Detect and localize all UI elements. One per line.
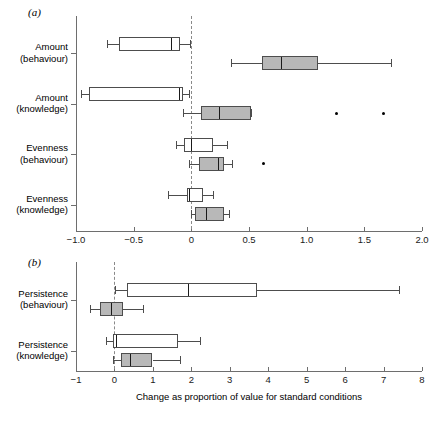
- boxplot-white: [113, 334, 179, 348]
- y-axis-tick: [71, 205, 76, 206]
- category-label: Evenness(knowledge): [6, 193, 68, 216]
- whisker-cap-low: [107, 40, 108, 48]
- x-axis-tick: [345, 367, 346, 371]
- x-axis-tick-label: −1.0: [56, 234, 96, 245]
- whisker-cap-high: [399, 286, 400, 294]
- category-label: Persistence(behaviour): [6, 288, 68, 311]
- x-axis-tick-label: 7: [364, 374, 404, 385]
- category-label: Persistence(knowledge): [6, 339, 68, 362]
- whisker-low: [183, 113, 200, 114]
- y-axis-tick: [71, 351, 76, 352]
- x-axis-tick-label: 1: [133, 374, 173, 385]
- whisker-high: [203, 195, 213, 196]
- category-label-line: (behaviour): [6, 53, 68, 65]
- whisker-high: [123, 309, 143, 310]
- median-line: [171, 38, 172, 50]
- panel-b: (b) Change as proportion of value for st…: [0, 252, 439, 421]
- category-label-line: (behaviour): [6, 299, 68, 311]
- boxplot-grey: [121, 353, 153, 367]
- whisker-cap-high: [227, 141, 228, 149]
- x-axis-tick: [268, 367, 269, 371]
- x-axis-tick-label: 8: [402, 374, 439, 385]
- x-axis-tick: [134, 227, 135, 231]
- median-line: [188, 284, 189, 296]
- whisker-cap-high: [213, 191, 214, 199]
- whisker-high: [178, 341, 200, 342]
- whisker-low: [113, 360, 121, 361]
- whisker-high: [257, 290, 398, 291]
- x-axis-tick: [422, 367, 423, 371]
- y-axis-tick: [71, 104, 76, 105]
- boxplot-grey: [262, 56, 319, 70]
- whisker-low: [168, 195, 186, 196]
- whisker-cap-high: [189, 90, 190, 98]
- whisker-cap-low: [176, 141, 177, 149]
- median-line: [179, 88, 180, 100]
- whisker-cap-high: [143, 305, 144, 313]
- x-axis-tick-label: 6: [325, 374, 365, 385]
- y-axis-tick: [71, 154, 76, 155]
- y-axis-tick: [71, 300, 76, 301]
- x-axis-tick-label: 5: [287, 374, 327, 385]
- boxplot-grey: [201, 106, 252, 120]
- x-axis-tick-label: −0.5: [114, 234, 154, 245]
- category-label-line: Evenness: [6, 142, 68, 154]
- x-axis-tick: [364, 227, 365, 231]
- panel-a-letter: (a): [28, 6, 41, 18]
- x-axis-tick-label: 4: [248, 374, 288, 385]
- x-axis-tick-label: 2.0: [402, 234, 439, 245]
- x-axis-tick: [76, 227, 77, 231]
- x-axis-tick-label: 0.5: [229, 234, 269, 245]
- whisker-low: [176, 145, 184, 146]
- x-axis-line: [76, 231, 422, 232]
- whisker-cap-low: [113, 356, 114, 364]
- whisker-high: [153, 360, 180, 361]
- outlier-point: [335, 112, 338, 115]
- median-line: [219, 107, 220, 119]
- whisker-low: [189, 164, 199, 165]
- outlier-point: [382, 112, 385, 115]
- median-line: [189, 189, 190, 201]
- x-axis-tick-label: 2: [171, 374, 211, 385]
- x-axis-tick: [191, 367, 192, 371]
- whisker-cap-low: [183, 109, 184, 117]
- category-label-line: (knowledge): [6, 350, 68, 362]
- boxplot-figure: (a) −1.0−0.500.51.01.52.0Amount(behaviou…: [0, 0, 439, 421]
- whisker-cap-low: [81, 90, 82, 98]
- median-line: [281, 57, 282, 69]
- category-label-line: Evenness: [6, 193, 68, 205]
- category-label-line: (behaviour): [6, 154, 68, 166]
- x-axis-tick-label: 3: [210, 374, 250, 385]
- category-label-line: (knowledge): [6, 204, 68, 216]
- whisker-low: [115, 290, 127, 291]
- x-axis-tick: [153, 367, 154, 371]
- whisker-cap-high: [190, 40, 191, 48]
- category-label: Amount(behaviour): [6, 41, 68, 64]
- category-label-line: Amount: [6, 41, 68, 53]
- y-axis-line: [76, 16, 77, 231]
- whisker-low: [231, 63, 262, 64]
- median-line: [111, 303, 112, 315]
- whisker-cap-low: [189, 160, 190, 168]
- x-axis-tick: [384, 367, 385, 371]
- whisker-cap-low: [90, 305, 91, 313]
- x-axis-title: Change as proportion of value for standa…: [76, 391, 422, 402]
- category-label-line: Amount: [6, 92, 68, 104]
- panel-a: (a) −1.0−0.500.51.01.52.0Amount(behaviou…: [0, 0, 439, 252]
- category-label-line: (knowledge): [6, 103, 68, 115]
- whisker-high: [180, 44, 190, 45]
- whisker-cap-low: [191, 210, 192, 218]
- whisker-cap-low: [115, 286, 116, 294]
- x-axis-tick-label: 1.0: [287, 234, 327, 245]
- boxplot-white: [184, 138, 213, 152]
- median-line: [130, 354, 131, 366]
- median-line: [218, 158, 219, 170]
- boxplot-grey: [199, 157, 223, 171]
- whisker-cap-high: [391, 59, 392, 67]
- whisker-high: [224, 164, 232, 165]
- whisker-high: [318, 63, 391, 64]
- whisker-low: [81, 94, 89, 95]
- whisker-cap-low: [231, 59, 232, 67]
- whisker-cap-high: [200, 337, 201, 345]
- x-axis-tick: [307, 367, 308, 371]
